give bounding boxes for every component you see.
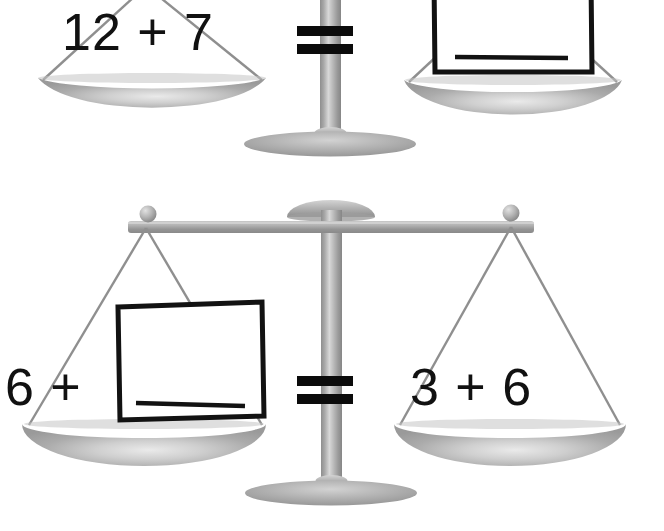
equals-bar-lower	[297, 44, 353, 54]
equals-bar-lower	[297, 394, 353, 404]
answer-box-top-right[interactable]	[434, 0, 592, 72]
answer-line-bottom-left[interactable]	[136, 403, 245, 406]
scale-bottom-left-pan	[22, 424, 266, 466]
scale-top-right-pan	[404, 80, 622, 115]
scale-top-right-pan-rim	[405, 75, 621, 85]
expression-top-left: 12 + 7	[62, 2, 214, 62]
equals-bar-upper	[297, 26, 353, 36]
equals-bar-upper	[297, 376, 353, 386]
equals-icon-top	[297, 26, 353, 54]
scale-bottom-right-pan	[394, 424, 626, 466]
answer-box-bottom-left[interactable]	[118, 302, 264, 420]
scale-bottom	[22, 200, 626, 506]
scale-bottom-right-pan-rim	[396, 419, 624, 429]
expression-bottom-right: 3 + 6	[410, 357, 532, 417]
equals-icon-bottom	[297, 376, 353, 404]
scale-bottom-left-knob	[140, 206, 157, 223]
scale-top-left-pan-rim	[38, 73, 266, 83]
answer-line-top-right[interactable]	[455, 57, 568, 58]
worksheet-canvas: 12 + 7 6 + 3 + 6	[0, 0, 664, 531]
scale-bottom-right-knob	[503, 205, 520, 222]
scale-top-post	[320, 0, 341, 135]
scale-top-base	[244, 132, 416, 157]
expression-bottom-left: 6 +	[5, 357, 82, 417]
scale-bottom-post	[321, 210, 342, 482]
scale-bottom-base	[245, 481, 417, 506]
scales-illustration	[0, 0, 664, 531]
